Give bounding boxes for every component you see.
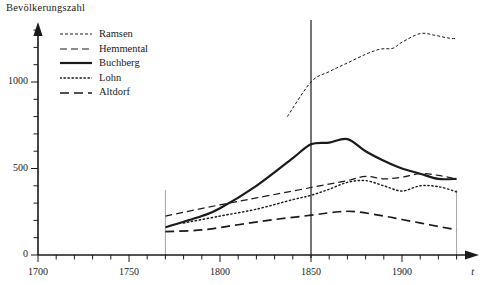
legend-item-buchberg[interactable]: Buchberg bbox=[60, 56, 148, 71]
series-line-lohn bbox=[184, 180, 457, 223]
legend-item-altdorf[interactable]: Altdorf bbox=[60, 85, 148, 100]
x-axis-variable: t bbox=[471, 266, 474, 277]
legend-label: Ramsen bbox=[99, 29, 133, 40]
chart-figure: Bevölkerungszahl RamsenHemmentalBuchberg… bbox=[0, 0, 494, 285]
legend-label: Altdorf bbox=[99, 87, 130, 98]
legend-swatch-icon bbox=[60, 43, 92, 55]
y-tick-label: 500 bbox=[13, 162, 28, 173]
legend-label: Buchberg bbox=[99, 58, 140, 69]
x-tick-label: 1800 bbox=[210, 266, 230, 277]
series-line-ramsen bbox=[287, 33, 456, 116]
x-tick-label: 1750 bbox=[119, 266, 139, 277]
x-tick-label: 1900 bbox=[392, 266, 412, 277]
y-tick-label: 1000 bbox=[8, 75, 28, 86]
legend-item-hemmental[interactable]: Hemmental bbox=[60, 42, 148, 57]
legend-label: Lohn bbox=[99, 73, 121, 84]
x-tick-label: 1700 bbox=[28, 266, 48, 277]
legend-swatch-icon bbox=[60, 87, 92, 99]
y-tick-label: 0 bbox=[23, 248, 28, 259]
legend-label: Hemmental bbox=[99, 44, 148, 55]
legend-item-lohn[interactable]: Lohn bbox=[60, 71, 148, 86]
legend-item-ramsen[interactable]: Ramsen bbox=[60, 27, 148, 42]
legend-swatch-icon bbox=[60, 57, 92, 69]
legend-swatch-icon bbox=[60, 72, 92, 84]
legend-swatch-icon bbox=[60, 28, 92, 40]
chart-legend: RamsenHemmentalBuchbergLohnAltdorf bbox=[60, 27, 148, 100]
x-tick-label: 1850 bbox=[301, 266, 321, 277]
